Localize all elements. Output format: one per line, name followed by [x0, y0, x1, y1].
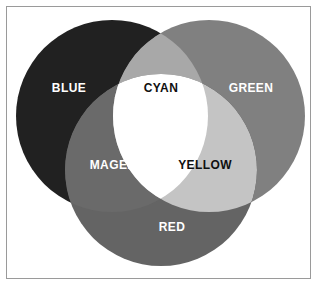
label-yellow: YELLOW — [178, 158, 232, 172]
label-magenta: MAGENTA — [90, 158, 153, 172]
venn-diagram: BLUE GREEN RED CYAN MAGENTA YELLOW — [0, 0, 324, 291]
figure-root: BLUE GREEN RED CYAN MAGENTA YELLOW — [0, 0, 324, 291]
label-red: RED — [159, 220, 186, 234]
label-blue: BLUE — [52, 81, 86, 95]
label-cyan: CYAN — [144, 81, 179, 95]
label-green: GREEN — [229, 81, 274, 95]
